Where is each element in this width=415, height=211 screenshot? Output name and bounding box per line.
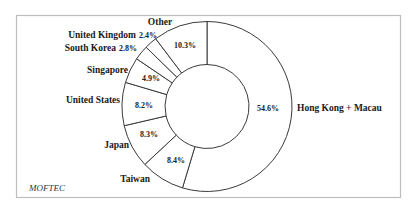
slice-value-label: 2.8%: [119, 44, 137, 53]
slice-value-label: 54.6%: [257, 104, 279, 113]
slice-label: Japan: [104, 140, 130, 150]
slice-label: Other: [148, 17, 173, 27]
slice-label: United Kingdom: [68, 30, 136, 40]
slice-value-label: 8.3%: [140, 130, 158, 139]
slice-label: South Korea: [65, 43, 117, 53]
slice-value-label: 8.4%: [167, 156, 185, 165]
slice-value-label: 8.2%: [135, 101, 153, 110]
slice-label: United States: [66, 95, 120, 105]
slice-label: Taiwan: [120, 174, 150, 184]
source-label: MOFTEC: [28, 183, 66, 193]
donut-chart: Hong Kong + Macau54.6%Taiwan8.4%Japan8.3…: [0, 0, 415, 211]
slice-value-label: 10.3%: [174, 41, 196, 50]
slice-label: Singapore: [87, 65, 128, 75]
slice-value-label: 2.4%: [139, 31, 157, 40]
slice-label: Hong Kong + Macau: [297, 103, 383, 113]
slice-value-label: 4.9%: [142, 74, 160, 83]
